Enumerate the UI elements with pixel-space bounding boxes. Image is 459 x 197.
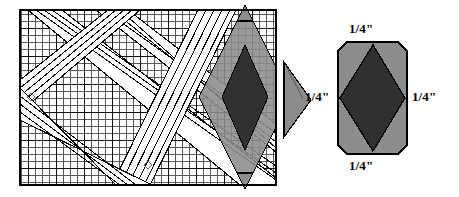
seam-allowance-label-top: 1/4" bbox=[349, 21, 373, 37]
finished-diamond-block bbox=[338, 42, 407, 154]
seam-allowance-label-bottom: 1/4" bbox=[349, 158, 373, 174]
seam-allowance-label-right: 1/4" bbox=[412, 89, 436, 105]
diagram-canvas: 1/4" 1/4" 1/4" 1/4" bbox=[0, 0, 459, 197]
figure-svg bbox=[0, 0, 459, 197]
seam-allowance-label-left: 1/4" bbox=[305, 89, 329, 105]
